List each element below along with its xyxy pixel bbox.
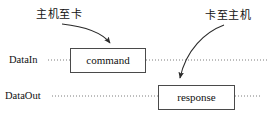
- protocol-timing-diagram: 主机至卡 卡至主机 DataIn DataOut command respons…: [0, 0, 269, 121]
- box-response: response: [158, 85, 235, 110]
- lane-label-datain: DataIn: [9, 55, 38, 66]
- box-command: command: [70, 48, 146, 73]
- annotation-card-to-host: 卡至主机: [205, 10, 251, 21]
- annotation-host-to-card: 主机至卡: [36, 9, 82, 20]
- lane-label-dataout: DataOut: [5, 91, 41, 102]
- box-response-label: response: [177, 92, 216, 103]
- arrow-host-to-card: [62, 24, 110, 43]
- box-command-label: command: [86, 55, 129, 66]
- arrow-card-to-host: [180, 25, 224, 78]
